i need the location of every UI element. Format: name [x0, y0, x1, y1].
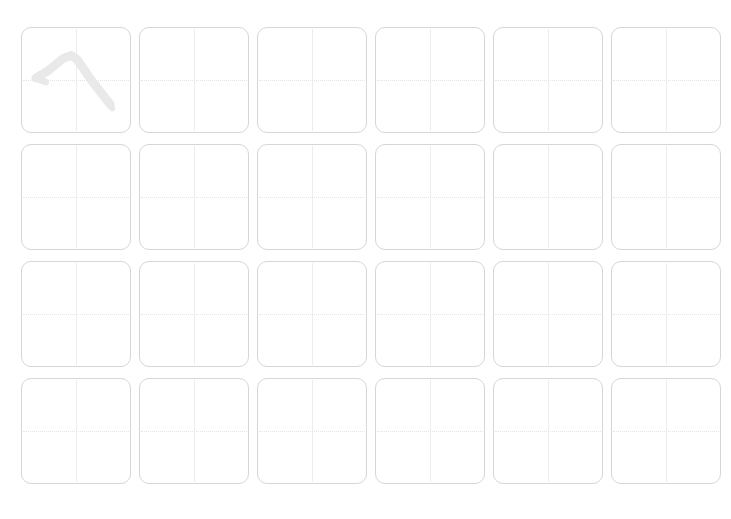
practice-cell[interactable] [611, 261, 721, 367]
horizontal-guide-line [495, 80, 601, 82]
horizontal-guide-line [141, 80, 247, 82]
horizontal-guide-line [377, 197, 483, 199]
practice-cell[interactable] [257, 144, 367, 250]
practice-cell[interactable] [139, 144, 249, 250]
practice-cell[interactable] [21, 261, 131, 367]
practice-cell[interactable] [21, 378, 131, 484]
practice-grid-row [21, 378, 721, 484]
horizontal-guide-line [259, 431, 365, 433]
practice-cell[interactable] [493, 261, 603, 367]
practice-cell[interactable] [257, 378, 367, 484]
practice-cell[interactable] [611, 27, 721, 133]
practice-cell[interactable] [21, 144, 131, 250]
horizontal-guide-line [259, 197, 365, 199]
practice-cell[interactable] [139, 378, 249, 484]
practice-cell[interactable] [257, 27, 367, 133]
practice-cell[interactable] [375, 378, 485, 484]
practice-cell[interactable] [493, 144, 603, 250]
practice-cell[interactable] [21, 27, 131, 133]
horizontal-guide-line [613, 197, 719, 199]
practice-cell[interactable] [139, 261, 249, 367]
horizontal-guide-line [23, 431, 129, 433]
horizontal-guide-line [613, 314, 719, 316]
horizontal-guide-line [23, 314, 129, 316]
horizontal-guide-line [141, 197, 247, 199]
practice-cell[interactable] [493, 378, 603, 484]
practice-cell[interactable] [139, 27, 249, 133]
practice-cell[interactable] [375, 27, 485, 133]
horizontal-guide-line [377, 431, 483, 433]
practice-grid-row [21, 144, 721, 250]
horizontal-guide-line [23, 197, 129, 199]
practice-cell[interactable] [375, 261, 485, 367]
horizontal-guide-line [259, 314, 365, 316]
practice-grid-row [21, 27, 721, 133]
horizontal-guide-line [377, 314, 483, 316]
horizontal-guide-line [23, 80, 129, 82]
horizontal-guide-line [495, 197, 601, 199]
horizontal-guide-line [613, 80, 719, 82]
horizontal-guide-line [141, 314, 247, 316]
practice-cell[interactable] [257, 261, 367, 367]
practice-cell[interactable] [493, 27, 603, 133]
practice-sheet [0, 0, 731, 519]
horizontal-guide-line [495, 314, 601, 316]
practice-grid-row [21, 261, 721, 367]
horizontal-guide-line [613, 431, 719, 433]
horizontal-guide-line [377, 80, 483, 82]
horizontal-guide-line [141, 431, 247, 433]
practice-cell[interactable] [375, 144, 485, 250]
practice-cell[interactable] [611, 144, 721, 250]
practice-grid [21, 27, 721, 484]
practice-cell[interactable] [611, 378, 721, 484]
horizontal-guide-line [495, 431, 601, 433]
horizontal-guide-line [259, 80, 365, 82]
